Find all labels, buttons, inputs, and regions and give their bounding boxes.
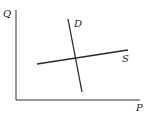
supply-label: S — [122, 53, 129, 64]
y-axis-label: Q — [3, 8, 11, 19]
demand-curve — [68, 19, 82, 92]
x-axis-label: P — [135, 102, 143, 113]
supply-curve — [37, 50, 128, 64]
demand-label: D — [73, 18, 82, 29]
supply-demand-diagram: Q P D S — [0, 0, 145, 118]
